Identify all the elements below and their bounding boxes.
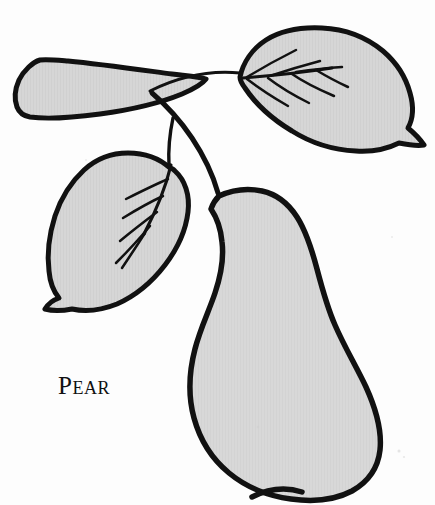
pear-illustration-svg <box>0 0 435 505</box>
page-title: Pear <box>58 373 110 398</box>
illustration-canvas: Pear <box>0 0 435 505</box>
